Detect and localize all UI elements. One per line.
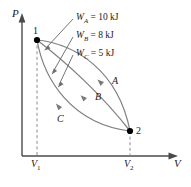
path-label-b: B xyxy=(95,92,101,102)
work-annotation-b: WB = 8 kJ xyxy=(76,31,114,43)
work-b-subscript: B xyxy=(84,35,88,42)
direction-arrow-c xyxy=(56,104,62,111)
state-marker-2 xyxy=(127,128,133,134)
path-label-c: C xyxy=(57,114,64,124)
work-a-symbol: W xyxy=(76,12,84,22)
work-a-value: = 10 kJ xyxy=(90,12,118,22)
state-label-1: 1 xyxy=(33,26,38,36)
path-label-a: A xyxy=(112,76,118,86)
x-tick-v2-sub: 2 xyxy=(130,164,134,172)
state-label-2: 2 xyxy=(136,126,141,136)
x-tick-label-v2: V2 xyxy=(124,159,134,172)
work-b-symbol: W xyxy=(76,30,84,40)
work-c-subscript: C xyxy=(84,53,89,60)
work-annotation-a: WA = 10 kJ xyxy=(76,13,119,25)
work-a-subscript: A xyxy=(84,17,88,24)
pv-diagram-figure: P V V1 V2 1 2 A B C WA = 10 kJ WB = 8 kJ… xyxy=(0,0,191,187)
state-marker-1 xyxy=(34,37,40,43)
direction-arrow-a xyxy=(97,80,104,86)
leader-arrowhead-wb xyxy=(52,68,58,74)
y-axis-label: P xyxy=(12,8,19,19)
y-axis-arrowhead xyxy=(19,13,26,23)
work-b-value: = 8 kJ xyxy=(90,30,113,40)
x-tick-v1-sub: 1 xyxy=(37,164,41,172)
leader-arrowhead-wc xyxy=(58,81,64,87)
x-axis-label: V xyxy=(174,158,181,169)
direction-arrow-b xyxy=(81,95,87,101)
x-tick-label-v1: V1 xyxy=(31,159,41,172)
work-c-symbol: W xyxy=(76,48,84,58)
work-c-value: = 5 kJ xyxy=(91,48,114,58)
work-annotation-c: WC = 5 kJ xyxy=(76,49,114,61)
